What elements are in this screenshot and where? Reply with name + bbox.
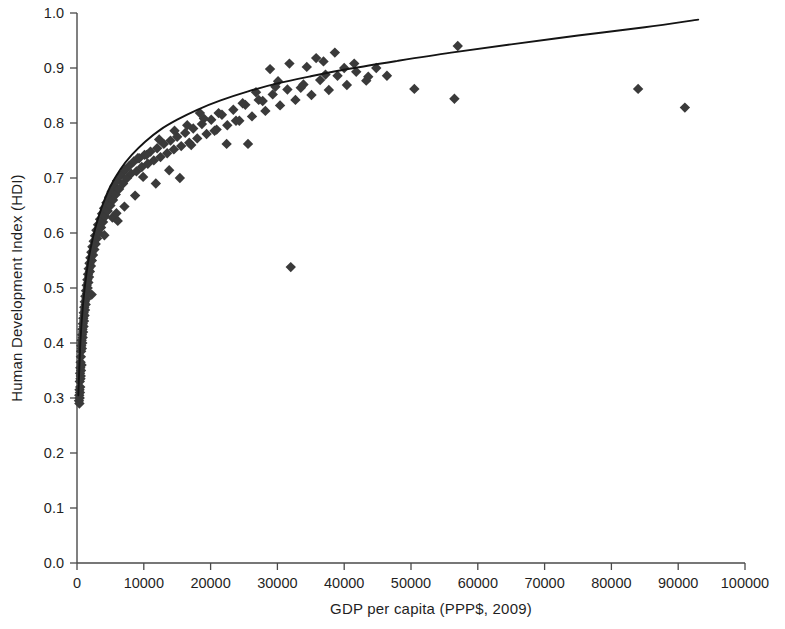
x-tick-label: 60000 (458, 575, 498, 591)
y-axis-title: Human Development Index (HDI) (8, 174, 25, 402)
y-tick-label: 1.0 (44, 5, 64, 21)
y-tick-label: 0.3 (44, 390, 64, 406)
x-tick-label: 20000 (190, 575, 230, 591)
scatter-chart: 0.00.10.20.30.40.50.60.70.80.91.0 010000… (0, 0, 785, 629)
y-tick-label: 0.4 (44, 335, 64, 351)
x-tick-label: 40000 (324, 575, 364, 591)
x-tick-label: 80000 (591, 575, 631, 591)
y-tick-label: 0.1 (44, 500, 64, 516)
chart-background (0, 0, 785, 629)
y-tick-label: 0.0 (44, 555, 64, 571)
y-tick-label: 0.7 (44, 170, 64, 186)
y-tick-label: 0.2 (44, 445, 64, 461)
x-tick-label: 70000 (524, 575, 564, 591)
x-tick-label: 10000 (124, 575, 164, 591)
y-tick-label: 0.5 (44, 280, 64, 296)
x-tick-label: 100000 (721, 575, 769, 591)
x-tick-label: 50000 (391, 575, 431, 591)
y-tick-label: 0.6 (44, 225, 64, 241)
x-axis-title: GDP per capita (PPP$, 2009) (330, 600, 532, 617)
x-tick-label: 90000 (658, 575, 698, 591)
y-tick-label: 0.8 (44, 115, 64, 131)
x-tick-label: 0 (73, 575, 81, 591)
x-tick-label: 30000 (257, 575, 297, 591)
y-tick-label: 0.9 (44, 60, 64, 76)
